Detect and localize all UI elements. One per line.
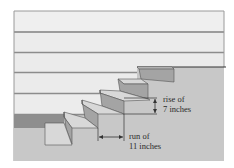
rise-label: rise of 7 inches xyxy=(163,95,191,114)
staircase-illustration xyxy=(0,0,234,168)
ground-left xyxy=(14,128,45,161)
run-label: run of 11 inches xyxy=(129,132,161,151)
staircase-diagram: rise of 7 inches run of 11 inches xyxy=(0,0,234,168)
run-label-line2: 11 inches xyxy=(129,142,161,152)
rise-label-line2: 7 inches xyxy=(163,105,191,115)
